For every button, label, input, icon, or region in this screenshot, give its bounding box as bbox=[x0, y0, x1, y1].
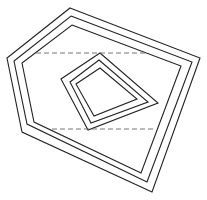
outer-pentagon-contour-2 bbox=[14, 16, 192, 182]
dashed-lines-group bbox=[36, 53, 155, 129]
nested-polygon-diagram bbox=[0, 0, 207, 200]
inner-quad-contour-1 bbox=[61, 53, 158, 130]
inner-quadrilateral-group bbox=[61, 53, 158, 130]
outer-pentagon-contour-1 bbox=[7, 8, 200, 192]
inner-quad-contour-3 bbox=[76, 68, 137, 116]
outer-pentagon-group bbox=[7, 8, 200, 192]
inner-quad-contour-2 bbox=[70, 60, 148, 123]
outer-pentagon-contour-3 bbox=[22, 25, 181, 173]
